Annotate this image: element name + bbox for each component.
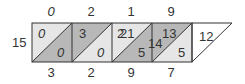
cell-1-lower-value: 0 bbox=[57, 46, 64, 60]
cell-2-upper-value: 3 bbox=[79, 27, 86, 41]
cell-4-overlay-value: 14 bbox=[148, 37, 162, 51]
end-cell-value: 12 bbox=[199, 30, 213, 44]
cell-4-lower-value: 5 bbox=[178, 46, 185, 60]
top-digit-4: 9 bbox=[161, 5, 181, 19]
cell-4-upper-value: 13 bbox=[162, 27, 176, 41]
top-digit-2: 2 bbox=[81, 5, 101, 19]
bottom-digit-2: 2 bbox=[81, 66, 101, 80]
cell-3-upper-value: 21 bbox=[120, 27, 134, 41]
bottom-digit-1: 3 bbox=[41, 66, 61, 80]
cell-1-upper-value: 0 bbox=[38, 27, 45, 41]
bottom-digit-3: 9 bbox=[121, 66, 141, 80]
top-digit-3: 1 bbox=[121, 5, 141, 19]
left-label: 15 bbox=[12, 36, 26, 50]
cell-2-lower-value: 0 bbox=[97, 46, 104, 60]
top-digit-1: 0 bbox=[41, 5, 61, 19]
bottom-digit-4: 7 bbox=[161, 66, 181, 80]
cell-3-lower-value: 5 bbox=[138, 46, 145, 60]
